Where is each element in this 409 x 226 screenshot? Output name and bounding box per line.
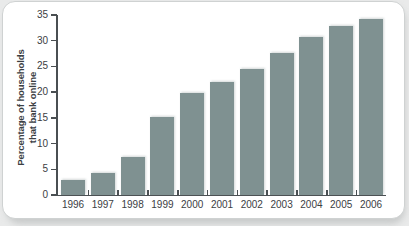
y-axis-tick-label-wrap: 15 [12, 112, 48, 124]
y-axis-tick-label-wrap: 5 [12, 163, 48, 175]
y-axis-tick-label: 30 [14, 35, 48, 46]
y-axis-tick-label: 25 [14, 60, 48, 71]
x-axis-tick [117, 190, 119, 196]
x-axis-tick [266, 190, 268, 196]
y-axis-tick-label: 5 [14, 163, 48, 174]
x-axis-tick [326, 190, 328, 196]
x-axis-tick [207, 190, 209, 196]
x-axis-tick-label: 2006 [351, 199, 391, 210]
y-axis-tick [51, 169, 57, 171]
y-axis-tick [51, 117, 57, 119]
y-axis-tick [51, 194, 57, 196]
x-axis-tick [147, 190, 149, 196]
x-axis-tick [237, 190, 239, 196]
bar [150, 117, 174, 195]
y-axis-tick-label-wrap: 35 [12, 9, 48, 21]
bar [299, 37, 323, 195]
y-axis-tick-label: 0 [14, 189, 48, 200]
y-axis-tick [51, 91, 57, 93]
bar [180, 93, 204, 195]
bar [240, 69, 264, 195]
x-axis-tick [88, 190, 90, 196]
bar [329, 26, 353, 195]
x-axis-tick [356, 190, 358, 196]
y-axis-tick-label-wrap: 10 [12, 138, 48, 150]
bar [91, 173, 115, 195]
x-axis-tick [296, 190, 298, 196]
bar [61, 180, 85, 195]
bar [121, 157, 145, 195]
bar [270, 53, 294, 195]
plot-area: Percentage of households that bank onlin… [0, 0, 409, 226]
y-axis-tick-label: 10 [14, 138, 48, 149]
y-axis-tick [51, 143, 57, 145]
y-axis-tick-label-wrap: 30 [12, 35, 48, 47]
chart-screenshot: Percentage of households that bank onlin… [0, 0, 409, 226]
y-axis-tick-label: 20 [14, 86, 48, 97]
y-axis-tick-label-wrap: 0 [12, 189, 48, 201]
y-axis-tick-label: 15 [14, 112, 48, 123]
y-axis-tick [51, 40, 57, 42]
y-axis-tick-label-wrap: 20 [12, 86, 48, 98]
y-axis-tick-label-wrap: 25 [12, 60, 48, 72]
bar [359, 19, 383, 195]
x-axis-tick [177, 190, 179, 196]
y-axis-tick [51, 66, 57, 68]
y-axis-tick [51, 14, 57, 16]
bar [210, 82, 234, 195]
y-axis-tick-label: 35 [14, 9, 48, 20]
